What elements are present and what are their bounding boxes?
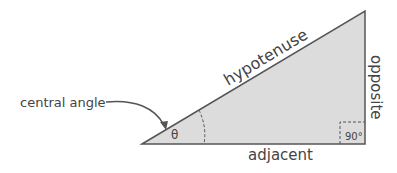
right-triangle <box>142 11 365 144</box>
adjacent-label: adjacent <box>248 146 313 164</box>
theta-label: θ <box>171 128 178 142</box>
triangle-diagram: central angle θ 90° adjacent hypotenuse … <box>0 0 397 173</box>
opposite-label: opposite <box>367 55 385 120</box>
arrow-line <box>106 101 164 125</box>
right-angle-label: 90° <box>345 131 363 142</box>
central-angle-label: central angle <box>20 95 106 110</box>
